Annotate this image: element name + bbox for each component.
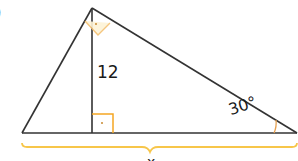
angle-arc-marker bbox=[274, 120, 276, 133]
foot-right-angle-marker bbox=[92, 114, 113, 133]
left-side bbox=[22, 8, 92, 133]
apex-right-angle-marker bbox=[85, 21, 110, 35]
right-side bbox=[92, 8, 297, 133]
part-label: ) bbox=[0, 0, 2, 24]
altitude-label: 12 bbox=[97, 62, 119, 82]
base-brace bbox=[22, 143, 297, 152]
triangle-diagram bbox=[0, 0, 298, 161]
base-label: x bbox=[147, 154, 155, 161]
